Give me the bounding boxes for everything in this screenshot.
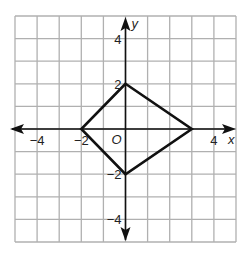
labels: x y O: [112, 16, 236, 147]
x-tick-label: 4: [210, 133, 217, 148]
x-axis-label: x: [227, 132, 235, 147]
y-tick-label: −2: [107, 167, 122, 182]
x-tick-label: −2: [74, 133, 89, 148]
y-tick-label: 2: [114, 77, 121, 92]
y-tick-label: 4: [114, 32, 121, 47]
coordinate-plane: x y O −4−2442−2−4: [0, 0, 246, 253]
y-axis-label: y: [131, 16, 140, 31]
origin-label: O: [112, 132, 122, 147]
axes: [10, 17, 236, 241]
y-tick-label: −4: [107, 212, 122, 227]
x-tick-label: −4: [30, 133, 45, 148]
